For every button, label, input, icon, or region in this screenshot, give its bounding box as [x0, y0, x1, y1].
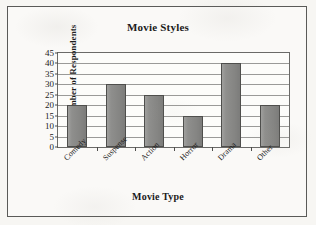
y-tick-label: 20 — [45, 101, 54, 110]
x-axis-title: Movie Type — [0, 191, 316, 202]
x-tick-mark — [251, 147, 252, 151]
y-tick-label: 40 — [45, 59, 54, 68]
plot-area: Number of Respondents 051015202530354045 — [57, 52, 290, 148]
y-tick-label: 45 — [45, 49, 54, 58]
x-tick-mark — [97, 147, 98, 151]
chart-title: Movie Styles — [0, 21, 316, 33]
bar — [221, 63, 241, 147]
bar — [260, 105, 280, 147]
y-tick-label: 35 — [45, 69, 54, 78]
y-tick-label: 10 — [45, 122, 54, 131]
y-tick-label: 5 — [50, 132, 55, 141]
y-tick-label: 0 — [50, 143, 55, 152]
y-tick-label: 15 — [45, 111, 54, 120]
y-tick-label: 25 — [45, 90, 54, 99]
x-tick-mark — [174, 147, 175, 151]
y-tick-label: 30 — [45, 80, 54, 89]
chart-page: Movie Styles Number of Respondents 05101… — [0, 0, 316, 225]
bar-series — [58, 53, 289, 147]
x-tick-mark — [212, 147, 213, 151]
x-tick-mark — [135, 147, 136, 151]
